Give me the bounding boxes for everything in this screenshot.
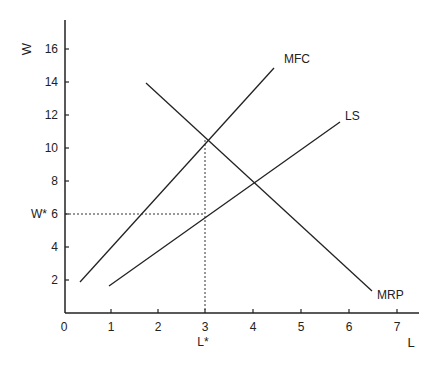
y-tick-12: 12 [45,108,59,122]
x-tick-1: 1 [108,320,115,334]
y-tick-10: 10 [45,141,59,155]
y-tick-8: 8 [51,174,58,188]
monopsony-chart: 2 4 6 W* 8 10 12 14 16 W 0 1 2 3 L* 4 5 … [0,0,440,366]
y-tick-2: 2 [51,273,58,287]
mfc-line [80,68,274,282]
y-axis-label: W [19,42,34,55]
x-tick-6: 6 [346,320,353,334]
y-tick-4: 4 [51,240,58,254]
y-tick-16: 16 [45,42,59,56]
y-tick-14: 14 [45,75,59,89]
y-tick-6: 6 [51,207,58,221]
x-tick-0: 0 [61,320,68,334]
l-star-label: L* [197,335,209,349]
x-tick-4: 4 [250,320,257,334]
mrp-line [146,83,372,291]
x-tick-7: 7 [394,320,401,334]
w-star-label: W* [31,207,47,221]
x-tick-3: 3 [202,320,209,334]
mrp-label: MRP [377,288,404,302]
x-tick-5: 5 [298,320,305,334]
x-axis-label: L [407,335,414,350]
ls-line [109,122,340,286]
ls-label: LS [345,109,360,123]
mfc-label: MFC [284,52,310,66]
x-tick-2: 2 [155,320,162,334]
